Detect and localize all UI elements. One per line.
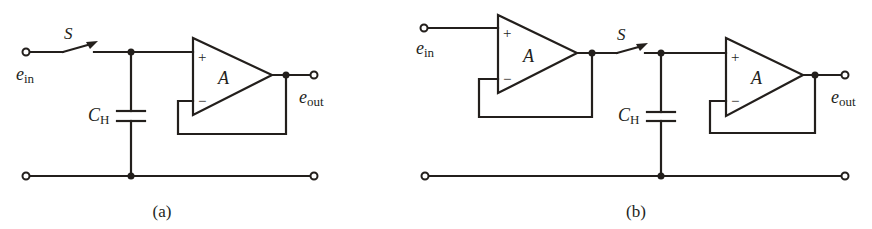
capacitor-label: CH: [88, 105, 109, 127]
switch-s: [617, 43, 648, 53]
junction-dot: [812, 72, 819, 79]
amp-label: A: [217, 68, 230, 88]
amp1-label: A: [522, 46, 535, 66]
capacitor-label: CH: [618, 105, 639, 127]
junction-dot: [283, 72, 290, 79]
input-terminal: [421, 25, 428, 32]
switch-arm: [63, 44, 91, 52]
capacitor-ch: [117, 52, 145, 176]
switch-label: S: [617, 25, 626, 44]
junction-dot: [658, 173, 665, 180]
plus-input-sign: +: [731, 49, 739, 65]
input-label: ein: [416, 38, 435, 60]
plus-input-sign: +: [198, 49, 206, 65]
plus-input-sign: +: [503, 25, 511, 41]
junction-dot: [589, 50, 596, 57]
diagram-a: S ein eout CH A + − (a): [16, 24, 324, 221]
output-terminal: [311, 72, 318, 79]
ground-terminal-right: [842, 173, 849, 180]
input-label: ein: [16, 64, 35, 86]
sample-and-hold-circuits: S ein eout CH A + − (a): [0, 0, 872, 229]
junction-dot: [128, 49, 135, 56]
junction-dot: [128, 173, 135, 180]
ground-terminal-left: [23, 173, 30, 180]
switch-arrowhead-icon: [636, 43, 648, 51]
caption-a: (a): [153, 202, 172, 221]
minus-input-sign: −: [198, 93, 206, 109]
minus-input-sign: −: [503, 71, 511, 87]
output-label: eout: [299, 87, 324, 109]
junction-dot: [658, 50, 665, 57]
caption-b: (b): [626, 202, 646, 221]
diagram-b: S ein eout CH A A + − + − (b): [416, 15, 856, 221]
capacitor-ch: [647, 53, 675, 176]
ground-terminal-right: [311, 173, 318, 180]
feedback-loop-1: [479, 53, 592, 117]
output-label: eout: [831, 87, 856, 109]
amp2-label: A: [750, 68, 763, 88]
switch-arrowhead-icon: [86, 41, 98, 49]
ground-terminal-left: [422, 173, 429, 180]
switch-label: S: [64, 24, 73, 43]
output-terminal: [842, 72, 849, 79]
input-terminal: [23, 49, 30, 56]
feedback-loop: [178, 75, 286, 134]
minus-input-sign: −: [731, 93, 739, 109]
